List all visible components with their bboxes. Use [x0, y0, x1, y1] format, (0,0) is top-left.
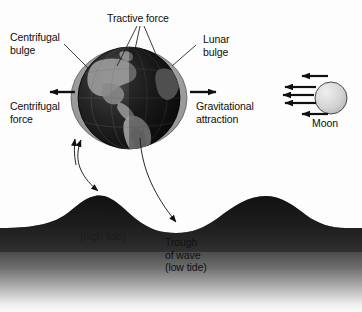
label-centrifugal-bulge: Centrifugal bulge: [10, 31, 60, 56]
label-centrifugal-bulge-line2: bulge: [10, 44, 60, 57]
label-trough-line1: Trough: [165, 236, 207, 249]
label-gravitational-attraction-line1: Gravitational: [196, 100, 254, 113]
label-gravitational-attraction: Gravitational attraction: [196, 100, 254, 125]
label-centrifugal-force-line1: Centrifugal: [10, 100, 60, 113]
label-centrifugal-bulge-line1: Centrifugal: [10, 31, 60, 44]
lunar-bulge-leader: [172, 45, 196, 66]
trough-link-curve: [140, 138, 176, 222]
tractive-force-leaders: [117, 26, 160, 66]
label-trough-line3: (low tide): [165, 261, 207, 274]
label-crest-line3: (high tide): [80, 230, 126, 243]
label-lunar-bulge-line1: Lunar: [203, 33, 229, 46]
label-crest-of-wave: Crest of wave (high tide): [80, 205, 126, 243]
centrifugal-bulge-leader: [64, 44, 88, 68]
label-moon: Moon: [312, 117, 338, 130]
crest-link-curve: [78, 140, 98, 191]
label-lunar-bulge: Lunar bulge: [203, 33, 229, 58]
label-trough-of-wave: Trough of wave (low tide): [165, 236, 207, 274]
label-tractive-force: Tractive force: [107, 12, 169, 25]
label-lunar-bulge-line2: bulge: [203, 46, 229, 59]
label-centrifugal-force-line2: force: [10, 113, 60, 126]
label-crest-line2: of wave: [80, 218, 126, 231]
label-gravitational-attraction-line2: attraction: [196, 113, 254, 126]
label-centrifugal-force: Centrifugal force: [10, 100, 60, 125]
moon-pull-arrows: [283, 76, 328, 114]
tide-diagram-figure: Tractive force Centrifugal bulge Centrif…: [0, 0, 362, 312]
label-trough-line2: of wave: [165, 249, 207, 262]
label-crest-line1: Crest: [80, 205, 126, 218]
bulge-pointer-arrow: [74, 139, 76, 165]
